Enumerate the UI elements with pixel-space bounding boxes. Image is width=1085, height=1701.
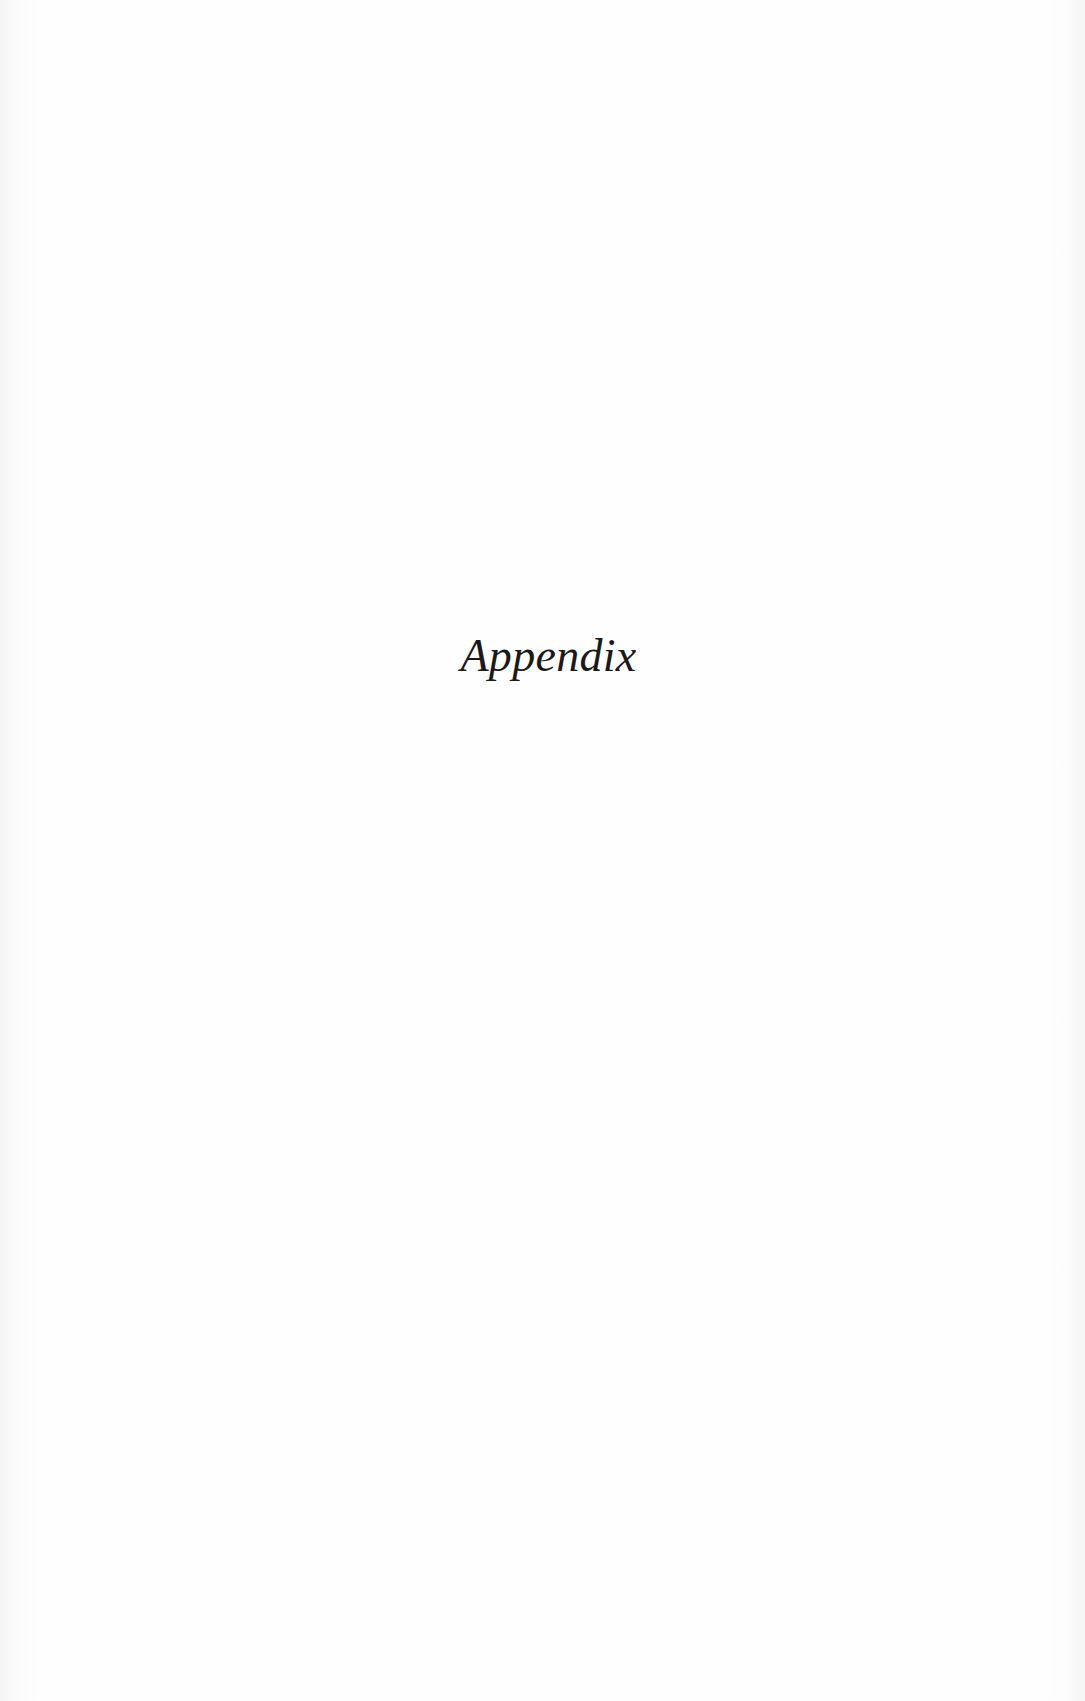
document-page: Appendix [0,0,1085,1701]
section-title: Appendix [0,628,1085,684]
